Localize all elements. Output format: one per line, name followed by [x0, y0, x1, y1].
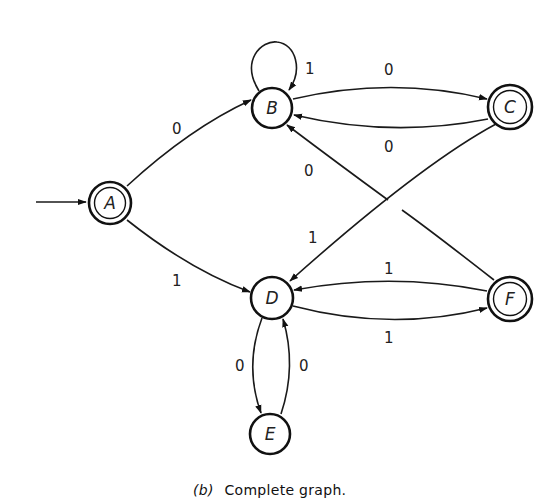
edge-d-to-e — [253, 318, 262, 413]
edge-f-to-b — [402, 210, 494, 280]
caption-text: Complete graph. — [224, 482, 346, 498]
edge-label-f-b: 0 — [304, 162, 314, 180]
edge-e-to-d — [281, 319, 290, 414]
node-c-label: C — [504, 97, 516, 117]
node-d: D — [251, 277, 293, 319]
edge-label-e-d: 0 — [299, 357, 309, 375]
figure-caption: (b) Complete graph. — [193, 482, 346, 498]
edge-f-to-b-upper — [287, 125, 388, 200]
edge-label-b-b: 1 — [305, 60, 315, 78]
node-b-label: B — [266, 98, 278, 118]
edge-label-a-d: 1 — [172, 272, 182, 290]
node-e: E — [250, 414, 290, 454]
state-diagram: 0 1 1 0 0 0 1 1 1 0 0 A B C — [0, 0, 560, 498]
edge-d-to-f — [293, 306, 487, 320]
edge-b-self-loop — [252, 42, 297, 91]
node-f: F — [488, 277, 532, 321]
edge-label-c-b: 0 — [384, 138, 394, 156]
edge-label-c-d: 1 — [308, 229, 318, 247]
node-b: B — [252, 88, 292, 128]
node-c: C — [488, 85, 532, 129]
node-e-label: E — [265, 424, 276, 444]
edge-f-to-d — [294, 281, 487, 291]
node-a-label: A — [103, 193, 116, 213]
edge-label-a-b: 0 — [172, 120, 182, 138]
node-f-label: F — [505, 289, 515, 309]
node-a: A — [89, 182, 131, 224]
caption-tag: (b) — [193, 482, 214, 498]
edge-label-f-d: 1 — [384, 260, 394, 278]
edge-a-to-d — [127, 220, 250, 292]
edge-label-d-f: 1 — [384, 329, 394, 347]
edge-label-b-c: 0 — [384, 61, 394, 79]
edge-b-to-c — [293, 88, 487, 100]
edge-label-d-e: 0 — [235, 357, 245, 375]
node-d-label: D — [265, 288, 278, 308]
edge-a-to-b — [127, 100, 251, 186]
edge-c-to-b — [294, 115, 488, 128]
